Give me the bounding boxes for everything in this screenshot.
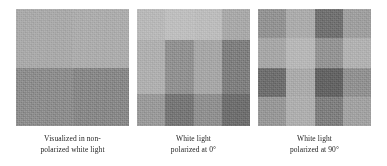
panel-3-caption-line-2: polarized at 90° xyxy=(247,144,382,155)
panel-2-caption-line-2: polarized at 0° xyxy=(126,144,261,155)
swatch-cell xyxy=(194,94,222,126)
nonpolarized-white-light-panel xyxy=(16,9,129,126)
swatch-cell xyxy=(258,38,286,67)
swatch-cell xyxy=(16,68,73,127)
swatch-cell xyxy=(194,40,222,94)
swatch-cell xyxy=(165,94,193,126)
panel-1-caption-line-1: Visualized in non- xyxy=(5,133,140,144)
swatch-cell xyxy=(222,94,250,126)
swatch-cell xyxy=(222,9,250,40)
panel-3-caption-line-1: White light xyxy=(247,133,382,144)
polarization-comparison-figure: Visualized in non- polarized white light… xyxy=(0,0,387,166)
swatch-cell xyxy=(16,9,73,68)
white-light-polarized-0deg-panel xyxy=(137,9,250,126)
swatch-cell xyxy=(258,68,286,97)
swatch-cell xyxy=(315,97,343,126)
swatch-cell xyxy=(343,68,371,97)
swatch-cell xyxy=(165,40,193,94)
swatch-cell xyxy=(222,40,250,94)
swatch-cell xyxy=(315,9,343,38)
swatch-cell xyxy=(286,9,314,38)
swatch-cell xyxy=(343,9,371,38)
swatch-cell xyxy=(286,38,314,67)
swatch-cell xyxy=(286,68,314,97)
swatch-cell xyxy=(137,94,165,126)
swatch-cell xyxy=(194,9,222,40)
white-light-polarized-90deg-panel xyxy=(258,9,371,126)
panel-2-caption-line-1: White light xyxy=(126,133,261,144)
panel-1-caption: Visualized in non- polarized white light xyxy=(5,133,140,155)
swatch-cell xyxy=(73,9,130,68)
swatch-cell xyxy=(137,9,165,40)
panel-1-caption-line-2: polarized white light xyxy=(5,144,140,155)
swatch-cell xyxy=(73,68,130,127)
swatch-cell xyxy=(286,97,314,126)
swatch-cell xyxy=(258,9,286,38)
swatch-cell xyxy=(343,38,371,67)
swatch-cell xyxy=(137,40,165,94)
swatch-cell xyxy=(315,38,343,67)
swatch-cell xyxy=(315,68,343,97)
swatch-cell xyxy=(165,9,193,40)
swatch-cell xyxy=(343,97,371,126)
panel-2-caption: White light polarized at 0° xyxy=(126,133,261,155)
swatch-cell xyxy=(258,97,286,126)
panel-3-caption: White light polarized at 90° xyxy=(247,133,382,155)
